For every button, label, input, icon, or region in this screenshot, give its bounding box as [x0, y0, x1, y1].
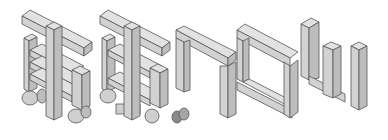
glyph-3 — [176, 26, 236, 118]
glyph-4 — [237, 24, 298, 118]
small-cylinders — [172, 108, 189, 123]
glyph-5 — [301, 18, 367, 110]
block-letter-illustration — [0, 0, 388, 140]
glyph-2 — [100, 10, 170, 123]
glyph-1 — [22, 10, 92, 123]
